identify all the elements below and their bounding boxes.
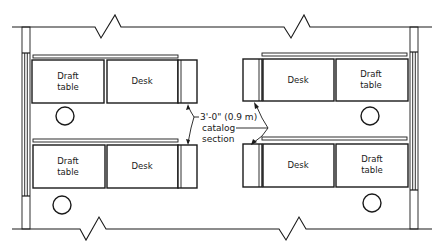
- shelf: [262, 137, 407, 140]
- chair: [53, 196, 71, 214]
- top-wall: [12, 15, 432, 38]
- workstation-top-right: Desk Draft table: [243, 53, 408, 125]
- workstation-bottom-left: Draft table Desk: [33, 139, 197, 214]
- draft-table-label: Draft: [57, 71, 79, 81]
- arrow-icon: [186, 104, 190, 110]
- chair: [56, 107, 74, 125]
- draft-table-label: Draft: [360, 69, 382, 79]
- draft-table-label: table: [360, 80, 382, 90]
- arrow-icon: [186, 139, 190, 145]
- dimension-label: 3'-0" (0.9 m): [200, 112, 257, 122]
- shelf: [33, 55, 178, 58]
- right-wall-column: [410, 27, 418, 229]
- chair: [361, 107, 379, 125]
- left-wall-column: [22, 27, 30, 229]
- desk-label: Desk: [131, 76, 152, 86]
- draft-table-label: table: [57, 82, 79, 92]
- draft-table-label: Draft: [57, 156, 79, 166]
- desk-label: Desk: [287, 160, 308, 170]
- dimension-label: section: [202, 134, 234, 144]
- shelf: [33, 139, 178, 142]
- desk-label: Desk: [131, 161, 152, 171]
- dimension-label: catalog: [202, 123, 235, 133]
- workstation-bottom-right: Desk Draft table: [243, 137, 408, 212]
- arrow-icon: [254, 102, 259, 109]
- desk-label: Desk: [287, 75, 308, 85]
- draft-table-label: table: [361, 165, 383, 175]
- draft-table-label: Draft: [361, 154, 383, 164]
- draft-table-label: table: [57, 167, 79, 177]
- bottom-wall: [12, 217, 432, 240]
- catalog-dimension-callout: 3'-0" (0.9 m) catalog section: [186, 102, 268, 145]
- chair: [363, 194, 381, 212]
- floor-plan-diagram: Draft table Desk Desk Draft table Draft …: [0, 0, 437, 249]
- workstation-top-left: Draft table Desk: [32, 55, 197, 125]
- shelf: [262, 53, 407, 56]
